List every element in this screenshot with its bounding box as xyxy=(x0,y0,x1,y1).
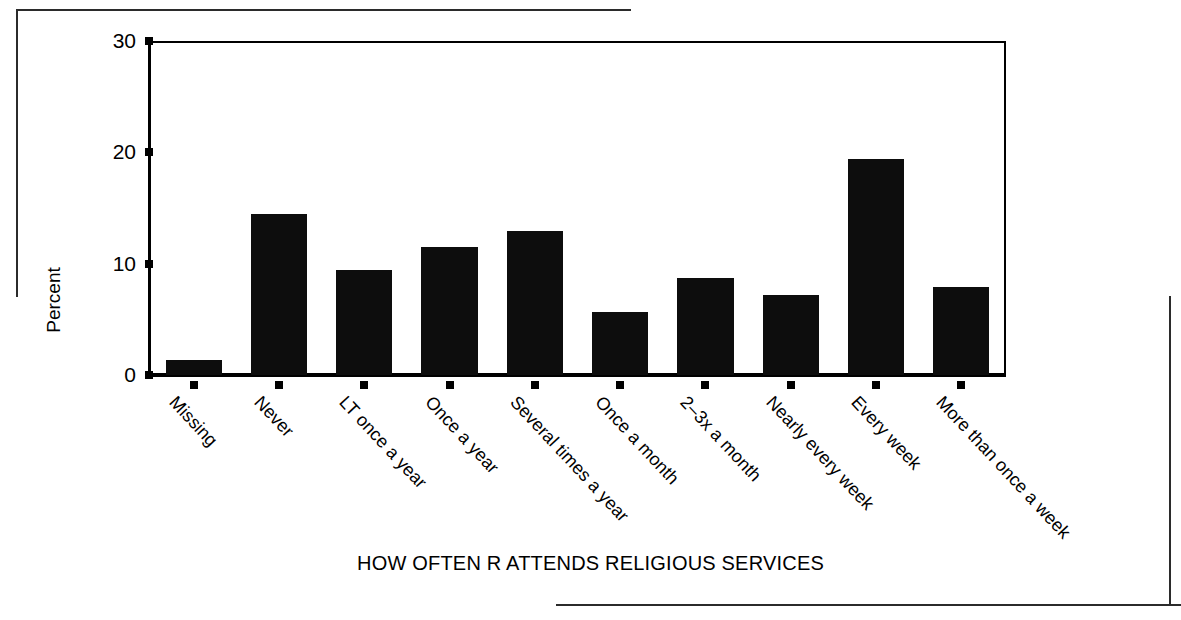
y-axis-tick: 0 xyxy=(96,364,136,385)
x-axis-tick-mark xyxy=(360,381,368,389)
x-axis-tick-label: Every week xyxy=(847,392,925,474)
x-axis-tick-label: Missing xyxy=(165,392,221,450)
chart-figure: 0102030 Percent MissingNeverLT once a ye… xyxy=(0,0,1181,620)
x-axis-tick-mark xyxy=(957,381,965,389)
bar xyxy=(251,214,307,375)
y-axis-tick: 30 xyxy=(96,30,136,51)
y-axis-title: Percent xyxy=(43,240,65,360)
decorative-rule-left xyxy=(16,9,18,297)
x-axis-tick-mark xyxy=(531,381,539,389)
x-axis-tick-mark xyxy=(872,381,880,389)
x-axis-tick-label: LT once a year xyxy=(336,392,431,492)
bar xyxy=(763,295,819,375)
bar-series xyxy=(151,43,1004,375)
x-axis-title: HOW OFTEN R ATTENDS RELIGIOUS SERVICES xyxy=(0,552,1181,575)
x-axis-tick-mark xyxy=(446,381,454,389)
y-axis-tick-label: 10 xyxy=(100,253,136,274)
y-axis-tick-label: 20 xyxy=(100,141,136,162)
bar xyxy=(592,312,648,375)
y-axis-tick-label: 0 xyxy=(100,364,136,385)
bar xyxy=(421,247,477,375)
decorative-rule-top xyxy=(16,9,631,11)
x-axis-tick-mark xyxy=(787,381,795,389)
x-axis-tick-label: Once a year xyxy=(421,392,503,477)
y-axis-tick: 20 xyxy=(96,141,136,162)
bar xyxy=(336,270,392,375)
y-axis-tick-label: 30 xyxy=(100,30,136,51)
x-axis-tick-mark xyxy=(701,381,709,389)
bar xyxy=(677,278,733,375)
bar xyxy=(507,231,563,375)
x-axis-tick-mark xyxy=(616,381,624,389)
x-axis-tick-mark xyxy=(190,381,198,389)
y-axis-tick: 10 xyxy=(96,253,136,274)
x-axis-tick-label: Never xyxy=(250,392,297,441)
x-axis-tick-label: Once a month xyxy=(592,392,684,488)
x-axis-tick-label: 2–3x a month xyxy=(677,392,766,485)
bar xyxy=(933,287,989,375)
x-axis-tick-mark xyxy=(275,381,283,389)
decorative-rule-bottom xyxy=(556,604,1181,606)
bar xyxy=(848,159,904,375)
x-axis-tick-label: More than once a week xyxy=(933,392,1075,542)
bar xyxy=(166,360,222,375)
